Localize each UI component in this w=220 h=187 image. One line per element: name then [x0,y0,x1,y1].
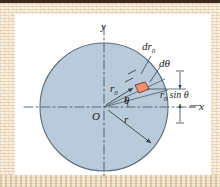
dr0-label: dr0 [142,41,155,55]
r0-label: r0 [110,83,118,97]
dr0-label-sub: 0 [152,47,155,54]
x-axis-dash-label: — [190,100,200,110]
figure-root: y x O dr0 dθ r0 θ r r0 sin θ — [0,0,220,187]
r0-label-sub: 0 [114,89,117,96]
height-expression-label: r0 sin θ [160,90,189,102]
theta-label: θ [124,95,129,106]
dtheta-label: dθ [159,58,170,69]
disk-radius-label: r [124,114,128,125]
y-axis-label: y [101,21,106,32]
dr0-label-main: dr [142,40,152,52]
height-label-tail: sin θ [167,89,189,100]
origin-label: O [92,111,100,122]
